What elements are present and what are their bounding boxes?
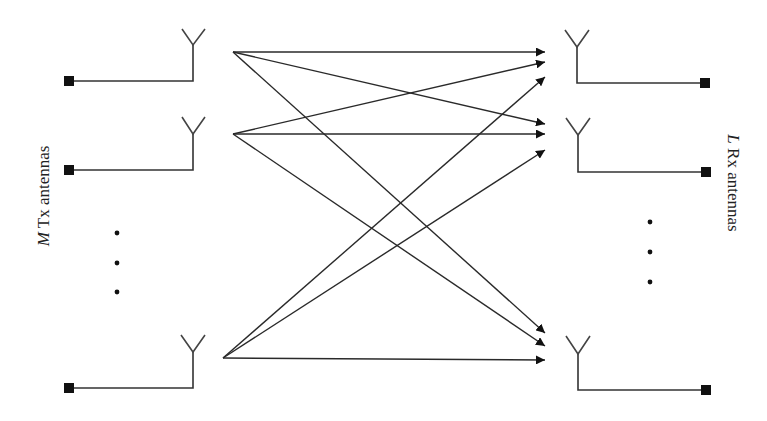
- mimo-diagram: [0, 0, 767, 421]
- terminal-square-icon: [700, 78, 710, 88]
- tx-antenna: [64, 117, 205, 175]
- rx-antenna: [566, 118, 711, 177]
- terminal-square-icon: [701, 385, 711, 395]
- antenna-icon: [182, 29, 205, 45]
- tx-antenna-group: [64, 29, 205, 393]
- antenna-icon: [181, 335, 205, 352]
- rx-antenna-group: [565, 30, 711, 395]
- tx-label-text: Tx antennas: [34, 146, 53, 233]
- link-arrow-tx-M-rx-1: [223, 77, 545, 358]
- feed-line: [74, 45, 193, 81]
- ellipsis-dots: [115, 220, 653, 295]
- link-arrow-tx-M-rx-2: [223, 150, 545, 358]
- terminal-square-icon: [64, 383, 74, 393]
- feed-line: [577, 47, 700, 83]
- tx-antenna: [64, 335, 205, 393]
- rx-antennas-label: L Rx antennas: [725, 134, 742, 231]
- feed-line: [74, 134, 193, 170]
- tx-ellipsis-dot: [115, 261, 120, 266]
- tx-antennas-label: M Tx antennas: [35, 146, 52, 247]
- link-arrow-tx-2-rx-L: [233, 134, 545, 346]
- link-arrow-tx-M-rx-L: [223, 358, 545, 360]
- link-arrow-tx-1-rx-L: [233, 52, 545, 333]
- rx-ellipsis-dot: [648, 250, 653, 255]
- feed-line: [74, 352, 193, 388]
- antenna-icon: [565, 30, 589, 47]
- rx-ellipsis-dot: [648, 220, 653, 225]
- antenna-icon: [566, 336, 590, 354]
- feed-line: [578, 354, 701, 390]
- link-arrow-tx-1-rx-2: [233, 52, 545, 124]
- terminal-square-icon: [64, 76, 74, 86]
- tx-antenna: [64, 29, 205, 86]
- tx-count-variable: M: [34, 232, 53, 246]
- tx-ellipsis-dot: [115, 290, 120, 295]
- channel-links: [223, 52, 545, 360]
- terminal-square-icon: [701, 167, 711, 177]
- rx-antenna: [566, 336, 711, 395]
- antenna-icon: [182, 117, 205, 134]
- tx-ellipsis-dot: [115, 231, 120, 236]
- rx-ellipsis-dot: [648, 280, 653, 285]
- rx-label-text: Rx antennas: [724, 144, 743, 232]
- terminal-square-icon: [64, 165, 74, 175]
- link-arrow-tx-2-rx-1: [233, 62, 545, 134]
- feed-line: [578, 135, 701, 172]
- antenna-icon: [566, 118, 590, 135]
- rx-antenna: [565, 30, 710, 88]
